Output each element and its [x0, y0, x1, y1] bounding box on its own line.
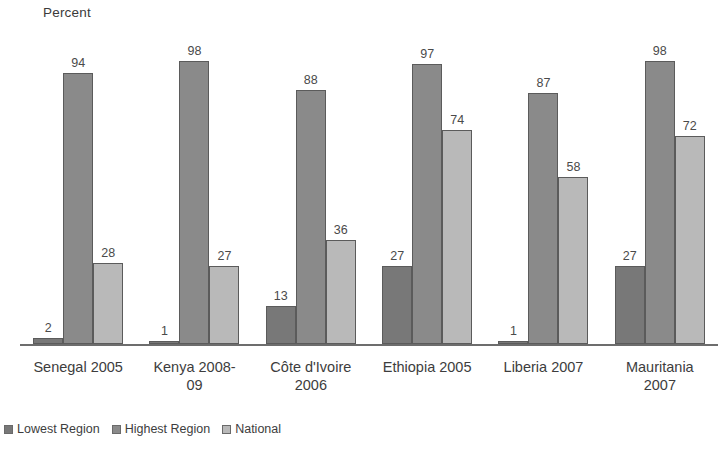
bar: [179, 61, 209, 344]
category-axis: Senegal 2005Kenya 2008-09Côte d'Ivoire20…: [0, 358, 724, 408]
legend-item[interactable]: Lowest Region: [4, 422, 100, 436]
bar-chart: Percent 29428198271388362797741875827987…: [0, 0, 724, 449]
bar-value-label: 94: [55, 57, 101, 70]
legend-label: Lowest Region: [17, 422, 100, 436]
bar-value-label: 98: [171, 45, 217, 58]
bar: [93, 263, 123, 344]
bar: [326, 240, 356, 344]
legend-item[interactable]: National: [222, 422, 281, 436]
bar: [296, 90, 326, 344]
bar-group: 279872: [602, 30, 718, 344]
bar: [63, 73, 93, 344]
bar: [209, 266, 239, 344]
bar-group: 279774: [369, 30, 485, 344]
y-axis-title: Percent: [43, 5, 91, 20]
legend-item[interactable]: Highest Region: [112, 422, 210, 436]
bar: [615, 266, 645, 344]
bar: [528, 93, 558, 344]
category-label: Liberia 2007: [485, 358, 601, 376]
bar: [382, 266, 412, 344]
bar-group: 19827: [136, 30, 252, 344]
legend-swatch-icon: [222, 425, 231, 434]
category-label: Ethiopia 2005: [369, 358, 485, 376]
bar-value-label: 87: [520, 77, 566, 90]
bar-value-label: 72: [667, 120, 713, 133]
legend-label: National: [235, 422, 281, 436]
category-label: Kenya 2008-09: [136, 358, 252, 394]
bar-value-label: 97: [404, 48, 450, 61]
category-label: Côte d'Ivoire2006: [253, 358, 369, 394]
bar-value-label: 28: [85, 247, 131, 260]
bar: [558, 177, 588, 344]
bar: [412, 64, 442, 344]
bar-value-label: 88: [288, 74, 334, 87]
category-label: Senegal 2005: [20, 358, 136, 376]
bar-group: 18758: [485, 30, 601, 344]
legend-swatch-icon: [112, 425, 121, 434]
bar-group: 29428: [20, 30, 136, 344]
bar: [645, 61, 675, 344]
bar: [675, 136, 705, 344]
bar-value-label: 58: [550, 161, 596, 174]
bar: [266, 306, 296, 344]
legend-swatch-icon: [4, 425, 13, 434]
bar-group: 138836: [253, 30, 369, 344]
plot-area: 294281982713883627977418758279872: [0, 30, 724, 348]
bar-value-label: 27: [201, 250, 247, 263]
bar-value-label: 36: [318, 224, 364, 237]
x-axis-line: [20, 344, 718, 346]
legend-label: Highest Region: [125, 422, 210, 436]
bar-value-label: 74: [434, 114, 480, 127]
category-label: Mauritania2007: [602, 358, 718, 394]
bar: [442, 130, 472, 344]
chart-legend: Lowest RegionHighest RegionNational: [4, 422, 281, 436]
bar-value-label: 98: [637, 45, 683, 58]
